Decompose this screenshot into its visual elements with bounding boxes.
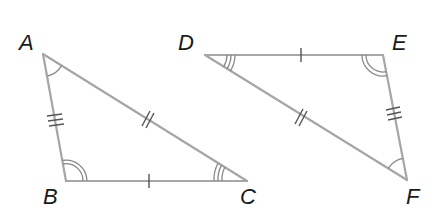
angle-a-single-arc	[48, 66, 62, 76]
congruent-triangles-diagram: A B C	[0, 0, 445, 222]
triangle-abc: A B C	[17, 30, 256, 209]
vertex-label-e: E	[392, 30, 407, 55]
vertex-label-c: C	[240, 184, 256, 209]
side-ef-triple-tick	[386, 107, 402, 120]
vertex-label-a: A	[17, 30, 34, 55]
side-df	[205, 55, 407, 180]
angle-f-single-arc	[388, 158, 403, 168]
vertex-label-d: D	[178, 30, 194, 55]
vertex-label-f: F	[406, 184, 421, 209]
triangle-def: D E F	[178, 30, 421, 209]
vertex-label-b: B	[43, 184, 58, 209]
